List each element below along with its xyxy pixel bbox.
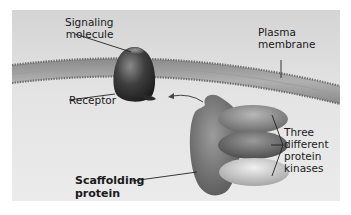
label-scaffolding-protein: Scaffolding protein <box>75 174 144 200</box>
label-signaling-molecule: Signaling molecule <box>65 16 114 40</box>
diagram: Signaling molecule Plasma membrane Recep… <box>0 0 351 215</box>
label-plasma-membrane: Plasma membrane <box>258 26 315 50</box>
label-receptor: Receptor <box>69 94 116 106</box>
kinase-3 <box>219 158 289 186</box>
label-kinases: Three different protein kinases <box>284 126 329 174</box>
